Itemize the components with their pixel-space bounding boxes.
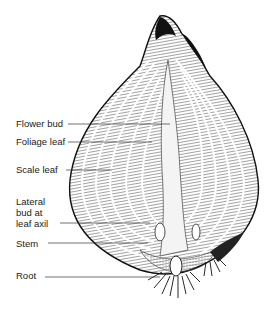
label-foliage-leaf: Foliage leaf [16, 136, 65, 147]
onion-illustration [0, 0, 276, 314]
label-scale-leaf: Scale leaf [16, 164, 58, 175]
label-stem: Stem [16, 238, 38, 249]
onion-diagram: Flower bud Foliage leaf Scale leaf Later… [0, 0, 276, 314]
label-root: Root [16, 270, 36, 281]
label-flower-bud: Flower bud [16, 118, 63, 129]
label-lateral-bud: Lateral bud at leaf axil [16, 196, 48, 229]
